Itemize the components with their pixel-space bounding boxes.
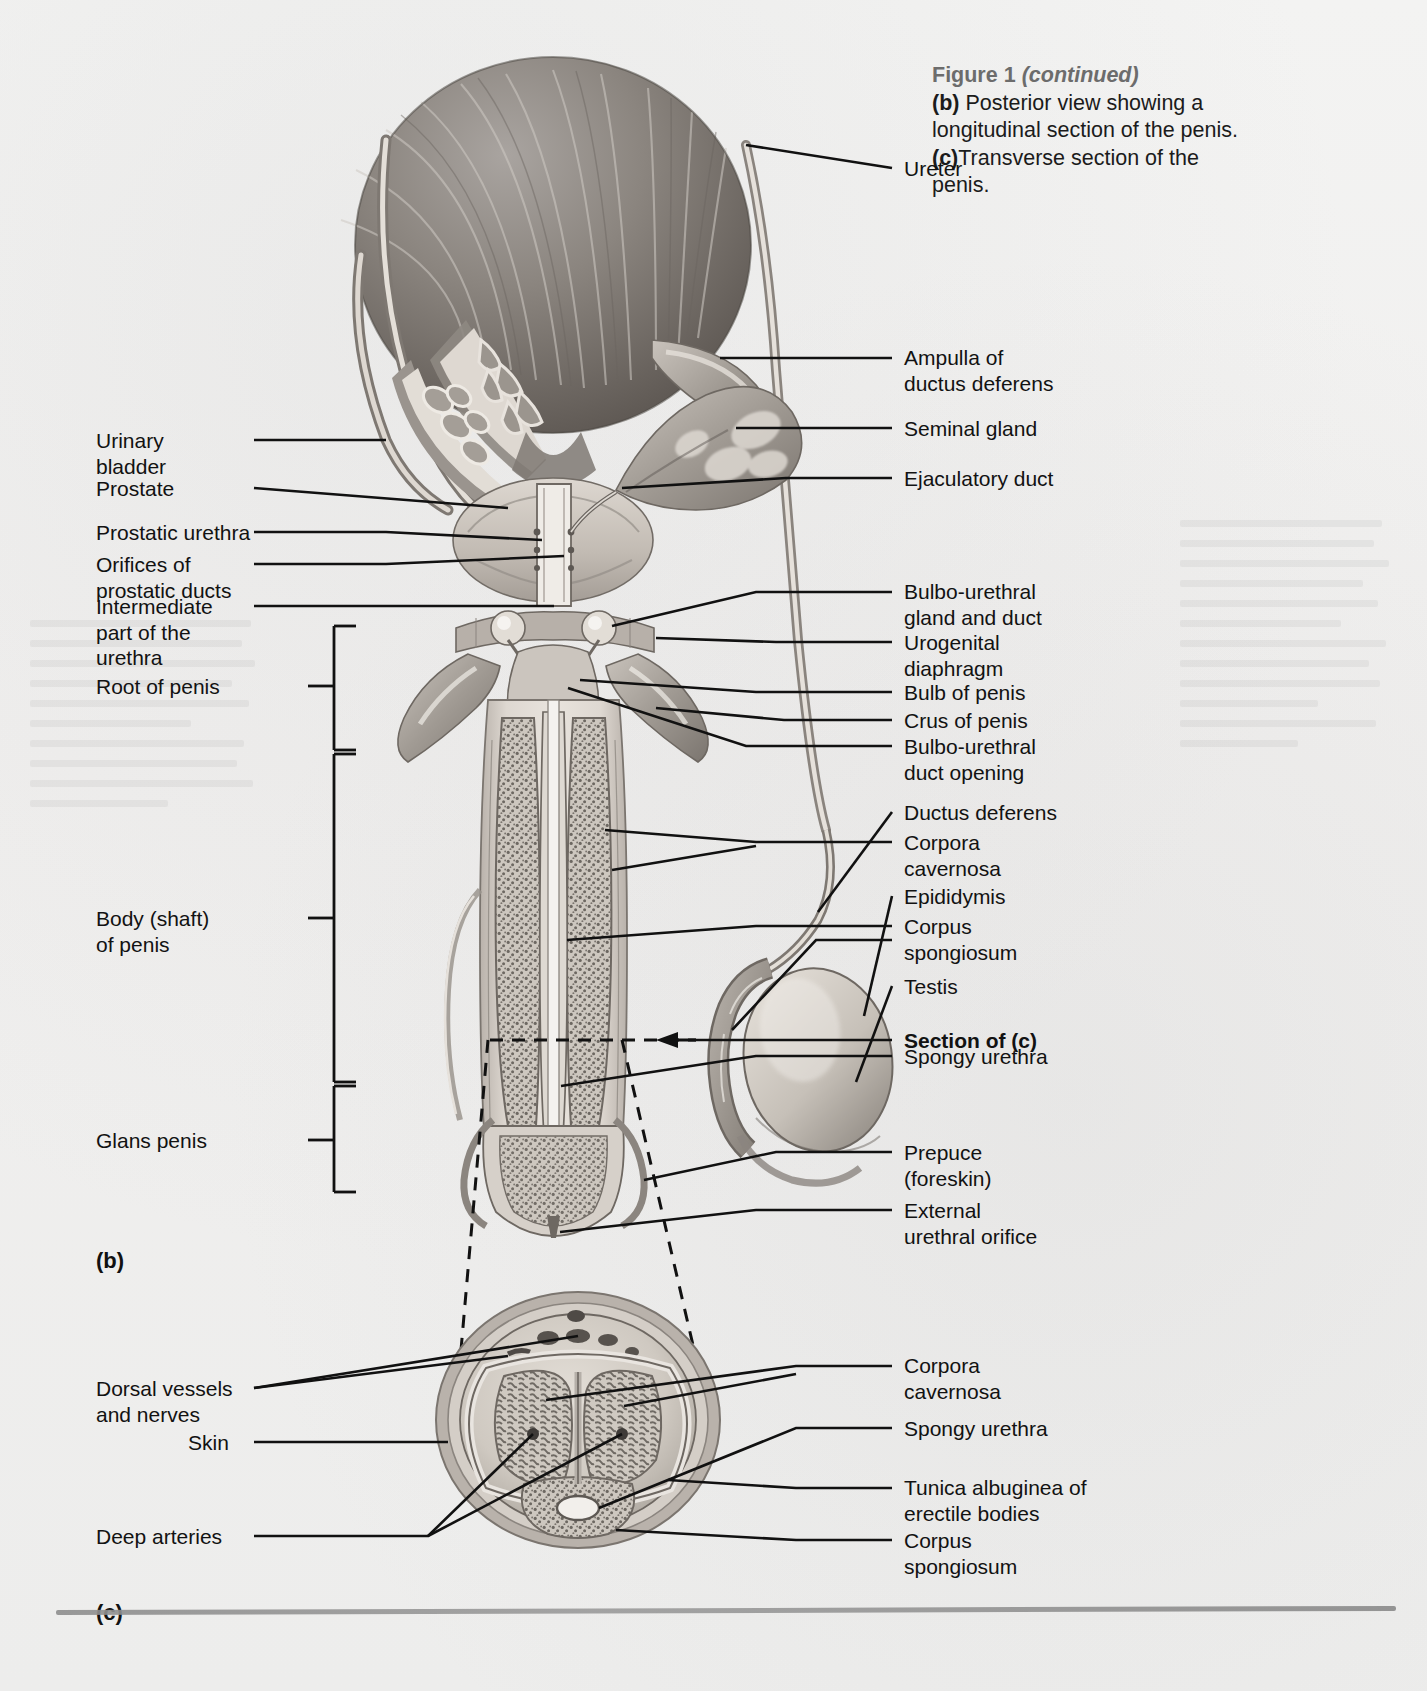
label-root-of-penis: Root of penis: [96, 674, 220, 700]
penis-longitudinal-section: [445, 700, 644, 1238]
corpus-cavernosum-right: [584, 1371, 661, 1485]
label-body-shaft-of-penis: Body (shaft) of penis: [96, 906, 209, 957]
panel-tag-b: (b): [96, 1248, 124, 1274]
label-testis: Testis: [904, 974, 958, 1000]
label-prostate: Prostate: [96, 476, 174, 502]
label-crus-of-penis: Crus of penis: [904, 708, 1028, 734]
label-ductus-deferens: Ductus deferens: [904, 800, 1057, 826]
label-spongy-urethra-b: Spongy urethra: [904, 1044, 1048, 1070]
label-corpus-spongiosum-c: Corpus spongiosum: [904, 1528, 1017, 1579]
label-corpora-cavernosa-b: Corpora cavernosa: [904, 830, 1001, 881]
label-external-urethral-orifice: External urethral orifice: [904, 1198, 1037, 1249]
label-epididymis: Epididymis: [904, 884, 1006, 910]
spongy-urethra-illustration: [548, 700, 559, 1160]
label-prepuce-foreskin: Prepuce (foreskin): [904, 1140, 992, 1191]
region-brackets-left: [308, 626, 356, 1192]
label-ejaculatory-duct: Ejaculatory duct: [904, 466, 1053, 492]
label-spongy-urethra-c: Spongy urethra: [904, 1416, 1048, 1442]
label-bulbo-urethral-duct-opening: Bulbo-urethral duct opening: [904, 734, 1036, 785]
label-urinary-bladder: Urinary bladder: [96, 428, 166, 479]
label-corpus-spongiosum-b: Corpus spongiosum: [904, 914, 1017, 965]
label-deep-arteries: Deep arteries: [96, 1524, 222, 1550]
label-intermediate-part-of-urethra: Intermediate part of the urethra: [96, 594, 213, 671]
ductus-deferens-illustration: [768, 830, 831, 970]
label-urogenital-diaphragm: Urogenital diaphragm: [904, 630, 1003, 681]
label-skin: Skin: [188, 1430, 229, 1456]
label-seminal-gland: Seminal gland: [904, 416, 1037, 442]
anatomical-illustration: [56, 40, 1376, 1540]
figure-1-male-reproductive-anatomy: Figure 1 (continued) (b) Posterior view …: [56, 40, 1376, 1540]
label-dorsal-vessels-and-nerves: Dorsal vessels and nerves: [96, 1376, 233, 1427]
spongy-urethra-lumen: [557, 1496, 599, 1520]
testis-and-epididymis-illustration: [718, 959, 904, 1184]
label-ureter: Ureter: [904, 156, 962, 182]
label-glans-penis: Glans penis: [96, 1128, 207, 1154]
label-bulbo-urethral-gland-and-duct: Bulbo-urethral gland and duct: [904, 579, 1042, 630]
label-ampulla-of-ductus-deferens: Ampulla of ductus deferens: [904, 345, 1053, 396]
label-bulb-of-penis: Bulb of penis: [904, 680, 1025, 706]
prostate-illustration: [453, 478, 653, 606]
label-corpora-cavernosa-c: Corpora cavernosa: [904, 1353, 1001, 1404]
label-tunica-albuginea-of-erectile-bodies: Tunica albuginea of erectile bodies: [904, 1475, 1087, 1526]
label-prostatic-urethra: Prostatic urethra: [96, 520, 250, 546]
